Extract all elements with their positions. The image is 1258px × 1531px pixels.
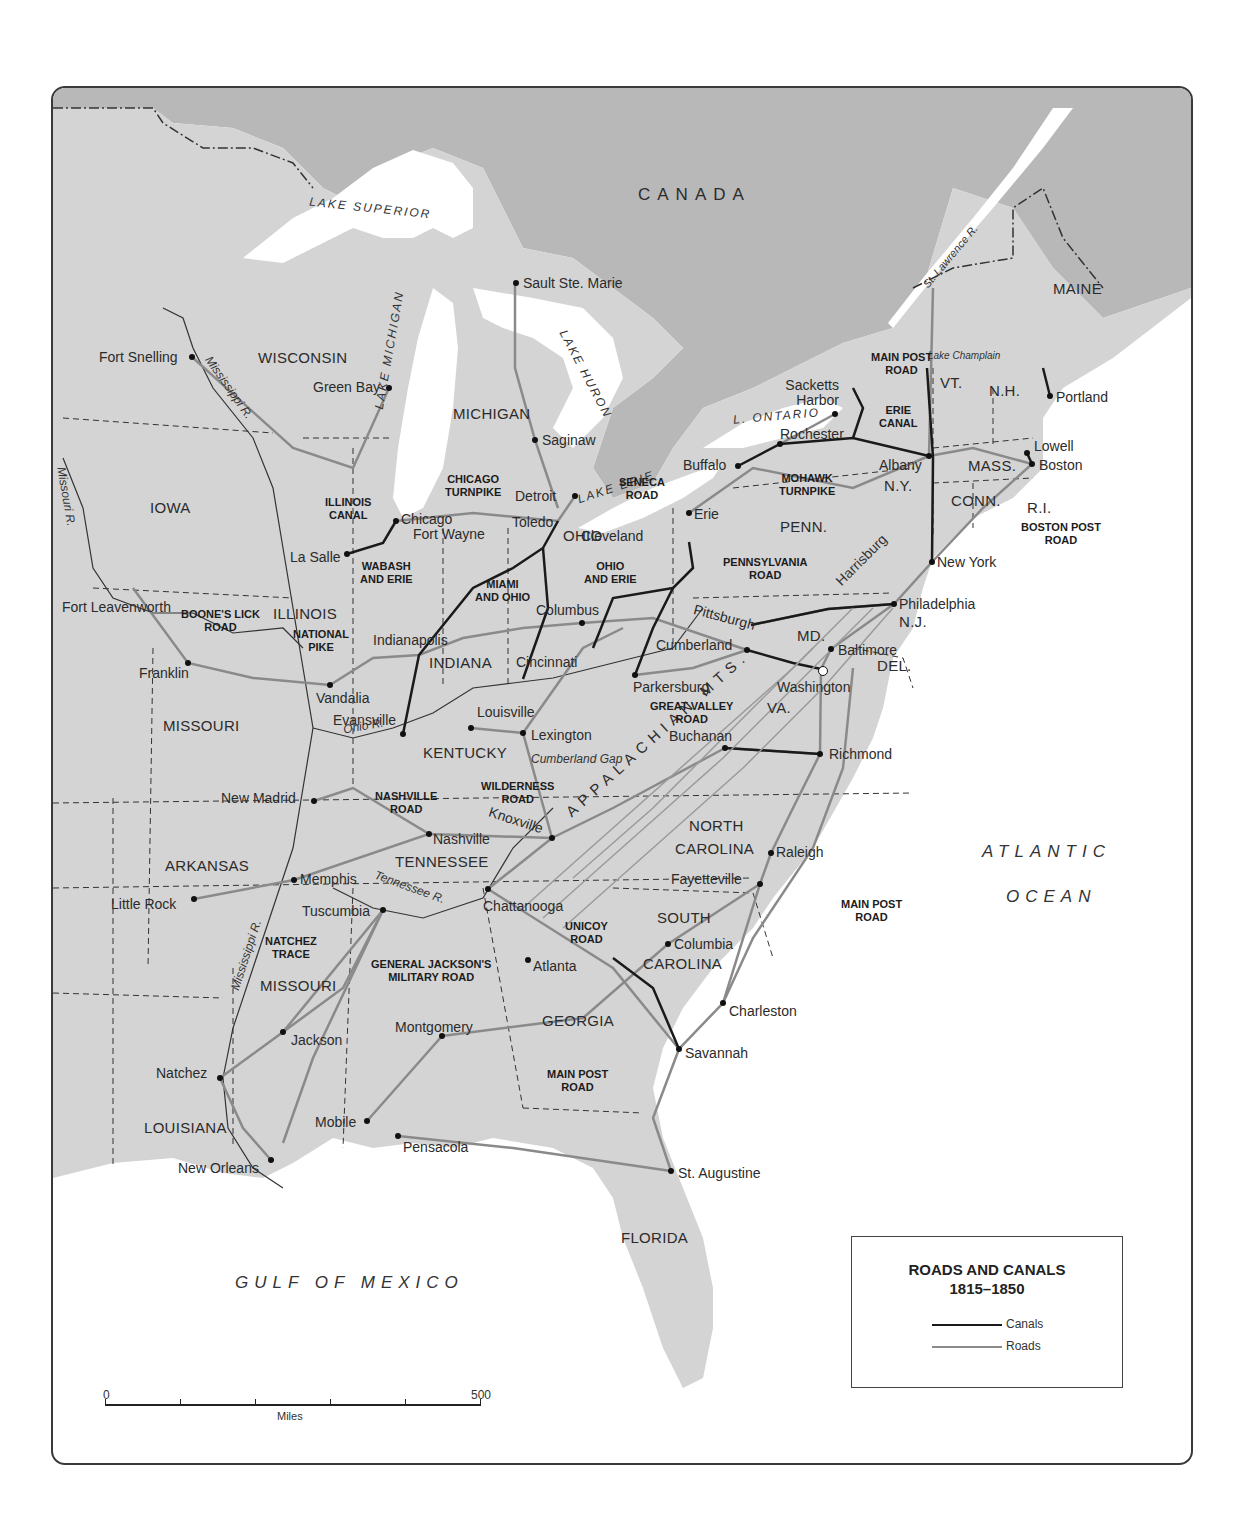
city-dot bbox=[722, 745, 728, 751]
city-label-natchez: Natchez bbox=[156, 1066, 207, 1080]
city-label-portland: Portland bbox=[1056, 390, 1108, 404]
city-dot bbox=[386, 385, 392, 391]
city-dot bbox=[380, 907, 386, 913]
city-dot bbox=[929, 559, 935, 565]
canal-line-swatch bbox=[932, 1324, 1002, 1326]
city-label-raleigh: Raleigh bbox=[776, 845, 823, 859]
city-dot bbox=[189, 354, 195, 360]
map-legend: ROADS AND CANALS 1815–1850 Canals Roads bbox=[851, 1236, 1123, 1388]
city-dot bbox=[426, 831, 432, 837]
state-label-new-jersey: N.J. bbox=[899, 614, 927, 629]
city-label-cleveland: Cleveland bbox=[581, 529, 643, 543]
city-dot bbox=[572, 493, 578, 499]
city-label-louisville: Louisville bbox=[477, 705, 535, 719]
city-dot bbox=[735, 463, 741, 469]
route-label-main-post-road-ny: MAIN POSTROAD bbox=[871, 351, 932, 376]
city-label-new-madrid: New Madrid bbox=[221, 791, 296, 805]
route-label-great-valley-road: GREAT VALLEYROAD bbox=[650, 700, 733, 725]
state-label-mississippi: MISSOURI bbox=[260, 978, 337, 993]
scale-tick bbox=[180, 1399, 181, 1406]
state-label-south-carolina-2: CAROLINA bbox=[643, 956, 722, 971]
legend-item-roads: Roads bbox=[932, 1339, 1041, 1353]
city-dot bbox=[832, 411, 838, 417]
city-dot bbox=[1029, 461, 1035, 467]
city-label-jackson: Jackson bbox=[291, 1033, 342, 1047]
route-label-ohio-and-erie: OHIOAND ERIE bbox=[584, 560, 637, 585]
city-label-richmond: Richmond bbox=[829, 747, 892, 761]
city-label-franklin: Franklin bbox=[139, 666, 189, 680]
city-label-charleston: Charleston bbox=[729, 1004, 797, 1018]
state-label-missouri: MISSOURI bbox=[163, 718, 240, 733]
route-label-wabash-and-erie: WABASHAND ERIE bbox=[360, 560, 413, 585]
city-dot bbox=[744, 647, 750, 653]
city-label-fort-snelling: Fort Snelling bbox=[99, 350, 178, 364]
state-label-kentucky: KENTUCKY bbox=[423, 745, 507, 760]
city-dot bbox=[768, 850, 774, 856]
route-label-chicago-turnpike: CHICAGOTURNPIKE bbox=[445, 473, 501, 498]
gulf-label: GULF OF MEXICO bbox=[235, 1274, 464, 1291]
city-label-evansville: Evansville bbox=[333, 713, 396, 727]
city-dot bbox=[291, 877, 297, 883]
city-dot bbox=[665, 941, 671, 947]
city-label-fayetteville: Fayetteville bbox=[671, 872, 742, 886]
state-label-louisiana: LOUISIANA bbox=[144, 1120, 227, 1135]
city-label-fort-wayne: Fort Wayne bbox=[413, 527, 485, 541]
route-label-main-post-road-carolinas: MAIN POSTROAD bbox=[841, 898, 902, 923]
route-label-seneca-road: SENECAROAD bbox=[619, 476, 665, 501]
lake-label-champlain: Lake Champlain bbox=[928, 351, 1000, 361]
state-label-indiana: INDIANA bbox=[429, 655, 492, 670]
state-label-north-carolina-2: CAROLINA bbox=[675, 841, 754, 856]
city-dot bbox=[280, 1029, 286, 1035]
scale-line bbox=[105, 1404, 481, 1406]
city-label-buffalo: Buffalo bbox=[683, 458, 726, 472]
route-label-general-jacksons-military-road: GENERAL JACKSON'SMILITARY ROAD bbox=[371, 958, 491, 983]
city-dot bbox=[891, 601, 897, 607]
state-label-maryland: MD. bbox=[797, 628, 825, 643]
state-label-delaware: DEL. bbox=[877, 658, 912, 673]
city-dot bbox=[513, 280, 519, 286]
route-label-boston-post-road: BOSTON POSTROAD bbox=[1021, 521, 1101, 546]
state-label-georgia: GEORGIA bbox=[542, 1013, 614, 1028]
city-label-washington: Washington bbox=[777, 680, 850, 694]
city-label-new-york: New York bbox=[937, 555, 996, 569]
city-dot bbox=[632, 672, 638, 678]
route-label-boones-lick-road: BOONE'S LICKROAD bbox=[181, 608, 260, 633]
state-label-wisconsin: WISCONSIN bbox=[258, 350, 347, 365]
route-label-miami-and-ohio: MIAMIAND OHIO bbox=[475, 578, 530, 603]
city-label-lowell: Lowell bbox=[1034, 439, 1074, 453]
map-frame: CANADA LAKE SUPERIOR LAKE MICHIGAN LAKE … bbox=[51, 86, 1193, 1465]
route-label-natchez-trace: NATCHEZTRACE bbox=[265, 935, 317, 960]
city-dot bbox=[757, 881, 763, 887]
state-label-rhode-island: R.I. bbox=[1027, 500, 1052, 515]
city-dot bbox=[485, 886, 491, 892]
state-label-new-york: N.Y. bbox=[884, 478, 912, 493]
state-label-massachusetts: MASS. bbox=[968, 458, 1016, 473]
route-label-illinois-canal: ILLINOISCANAL bbox=[325, 496, 371, 521]
city-label-atlanta: Atlanta bbox=[533, 959, 577, 973]
city-dot bbox=[525, 957, 531, 963]
city-dot bbox=[720, 1000, 726, 1006]
city-label-parkersburg: Parkersburg bbox=[633, 680, 709, 694]
state-label-pennsylvania: PENN. bbox=[780, 519, 827, 534]
city-label-chattanooga: Chattanooga bbox=[483, 899, 563, 913]
city-dot bbox=[1047, 393, 1053, 399]
state-label-florida: FLORIDA bbox=[621, 1230, 688, 1245]
state-label-virginia: VA. bbox=[767, 700, 791, 715]
route-label-nashville-road: NASHVILLEROAD bbox=[375, 790, 437, 815]
scale-tick bbox=[105, 1399, 106, 1406]
city-dot bbox=[817, 751, 823, 757]
city-label-chicago: Chicago bbox=[401, 512, 452, 526]
city-label-sacketts-harbor: Sacketts Harbor bbox=[749, 378, 839, 409]
state-label-illinois: ILLINOIS bbox=[273, 606, 337, 621]
route-label-wilderness-road: WILDERNESSROAD bbox=[481, 780, 554, 805]
state-label-south-carolina-1: SOUTH bbox=[657, 910, 711, 925]
city-label-green-bay: Green Bay bbox=[313, 380, 380, 394]
state-label-vermont: VT. bbox=[940, 375, 963, 390]
city-label-pensacola: Pensacola bbox=[403, 1140, 468, 1154]
city-label-toledo: Toledo bbox=[512, 515, 553, 529]
state-label-michigan: MICHIGAN bbox=[453, 406, 530, 421]
city-dot bbox=[828, 646, 834, 652]
state-label-new-hampshire: N.H. bbox=[989, 383, 1020, 398]
city-dot bbox=[549, 835, 555, 841]
legend-label-canals: Canals bbox=[1006, 1317, 1043, 1331]
